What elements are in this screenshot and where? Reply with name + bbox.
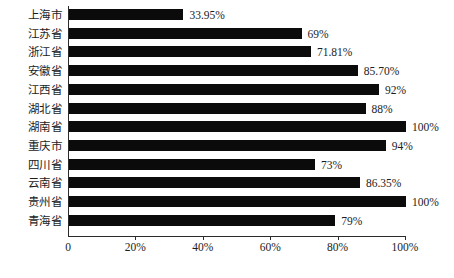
bar-row: 重庆市94% [68, 137, 405, 156]
bar-row: 江苏省69% [68, 25, 405, 44]
bar [69, 140, 386, 151]
category-label: 四川省 [2, 156, 62, 175]
category-label: 上海市 [2, 6, 62, 25]
x-axis-tick [135, 236, 136, 240]
x-axis-tick [338, 236, 339, 240]
bar [69, 196, 406, 207]
bar-value-label: 69% [302, 25, 329, 44]
bar-row: 浙江省71.81% [68, 43, 405, 62]
bar-value-label: 100% [406, 193, 439, 212]
category-label: 贵州省 [2, 193, 62, 212]
bar-row: 上海市33.95% [68, 6, 405, 25]
bar-chart: 上海市33.95%江苏省69%浙江省71.81%安徽省85.70%江西省92%湖… [0, 0, 454, 278]
plot-area: 上海市33.95%江苏省69%浙江省71.81%安徽省85.70%江西省92%湖… [68, 6, 405, 236]
x-axis-tick-label: 100% [392, 241, 419, 253]
category-label: 江西省 [2, 81, 62, 100]
category-label: 重庆市 [2, 137, 62, 156]
category-label: 江苏省 [2, 25, 62, 44]
bar [69, 28, 302, 39]
x-axis-line [68, 236, 406, 237]
bar-value-label: 71.81% [311, 43, 352, 62]
bar [69, 159, 315, 170]
bar-row: 江西省92% [68, 81, 405, 100]
bar [69, 65, 358, 76]
bar-value-label: 88% [366, 100, 393, 119]
bar-value-label: 79% [335, 212, 362, 231]
bar-value-label: 92% [379, 81, 406, 100]
category-label: 浙江省 [2, 43, 62, 62]
bar [69, 121, 406, 132]
bar-row: 青海省79% [68, 212, 405, 231]
bar-row: 安徽省85.70% [68, 62, 405, 81]
bar-row: 湖南省100% [68, 118, 405, 137]
x-axis-tick [270, 236, 271, 240]
bar-value-label: 100% [406, 118, 439, 137]
bar [69, 46, 311, 57]
bar-value-label: 85.70% [358, 62, 399, 81]
bar-row: 云南省86.35% [68, 174, 405, 193]
x-axis-tick-label: 0 [65, 241, 71, 253]
bar-row: 湖北省88% [68, 100, 405, 119]
bar-value-label: 94% [386, 137, 413, 156]
x-axis-tick-label: 60% [260, 241, 281, 253]
bar [69, 215, 335, 226]
category-label: 湖北省 [2, 100, 62, 119]
category-label: 安徽省 [2, 62, 62, 81]
x-axis-tick [405, 236, 406, 240]
bar [69, 103, 366, 114]
x-axis-tick-label: 80% [327, 241, 348, 253]
bar-value-label: 86.35% [360, 174, 401, 193]
bar-value-label: 73% [315, 156, 342, 175]
category-label: 青海省 [2, 212, 62, 231]
bar [69, 9, 183, 20]
x-axis-tick-label: 40% [192, 241, 213, 253]
bar-row: 四川省73% [68, 156, 405, 175]
bar-row: 贵州省100% [68, 193, 405, 212]
bar [69, 84, 379, 95]
bar-value-label: 33.95% [183, 6, 224, 25]
bar [69, 177, 360, 188]
x-axis-tick [203, 236, 204, 240]
category-label: 湖南省 [2, 118, 62, 137]
x-axis-tick-label: 20% [125, 241, 146, 253]
category-label: 云南省 [2, 174, 62, 193]
